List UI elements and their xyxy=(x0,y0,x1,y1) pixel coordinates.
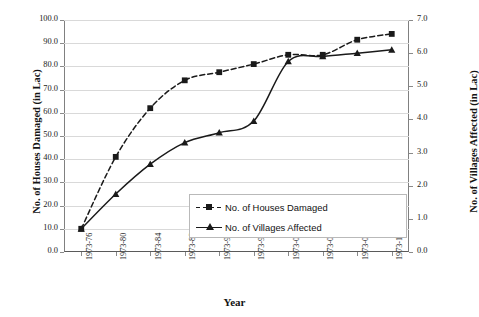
left-tick-label: 50.0 xyxy=(18,130,58,139)
right-tick-mark xyxy=(409,153,413,154)
right-tick-label: 7.0 xyxy=(417,14,457,23)
legend-label-villages-affected: No. of Villages Affected xyxy=(225,222,322,233)
legend-item-houses-damaged: No. of Houses Damaged xyxy=(196,198,328,216)
x-tick-mark xyxy=(150,252,151,256)
data-point-square-marker xyxy=(216,69,222,75)
x-tick-mark xyxy=(323,252,324,256)
left-tick-label: 90.0 xyxy=(18,37,58,46)
left-axis-title: No. of Houses Damaged (in Lac) xyxy=(31,42,42,242)
left-tick-label: 100.0 xyxy=(18,14,58,23)
right-tick-label: 6.0 xyxy=(417,47,457,56)
chart-legend: No. of Houses Damaged No. of Villages Af… xyxy=(189,194,407,238)
right-axis-title: No. of Villages Affected (in Lac) xyxy=(468,42,479,242)
x-tick-mark xyxy=(254,252,255,256)
solid-triangle-marker-icon xyxy=(196,222,222,232)
left-tick-label: 70.0 xyxy=(18,84,58,93)
right-tick-label: 5.0 xyxy=(417,80,457,89)
right-tick-mark xyxy=(409,53,413,54)
right-tick-label: 4.0 xyxy=(417,113,457,122)
data-point-square-marker xyxy=(182,77,188,83)
data-point-square-marker xyxy=(354,37,360,43)
data-point-square-marker xyxy=(285,52,291,58)
x-tick-mark xyxy=(185,252,186,256)
data-point-square-marker xyxy=(251,61,257,67)
x-tick-mark xyxy=(288,252,289,256)
data-point-square-marker xyxy=(147,105,153,111)
left-tick-label: 20.0 xyxy=(18,200,58,209)
right-tick-mark xyxy=(409,219,413,220)
x-axis-title: Year xyxy=(0,296,469,308)
x-tick-mark xyxy=(392,252,393,256)
left-tick-label: 60.0 xyxy=(18,107,58,116)
left-tick-mark xyxy=(60,252,64,253)
right-tick-label: 0.0 xyxy=(417,246,457,255)
x-tick-mark xyxy=(357,252,358,256)
left-tick-label: 10.0 xyxy=(18,223,58,232)
right-tick-mark xyxy=(409,252,413,253)
x-tick-mark xyxy=(81,252,82,256)
right-tick-label: 3.0 xyxy=(417,147,457,156)
right-tick-mark xyxy=(409,86,413,87)
plot-area: 0.010.020.030.040.050.060.070.080.090.01… xyxy=(64,20,409,252)
right-tick-mark xyxy=(409,119,413,120)
x-tick-mark xyxy=(219,252,220,256)
data-point-square-marker xyxy=(113,154,119,160)
legend-label-houses-damaged: No. of Houses Damaged xyxy=(225,202,328,213)
left-tick-label: 40.0 xyxy=(18,153,58,162)
right-tick-mark xyxy=(409,186,413,187)
right-tick-label: 2.0 xyxy=(417,180,457,189)
right-tick-label: 1.0 xyxy=(417,213,457,222)
left-tick-label: 30.0 xyxy=(18,176,58,185)
legend-item-villages-affected: No. of Villages Affected xyxy=(196,218,322,236)
data-point-square-marker xyxy=(389,31,395,37)
x-tick-mark xyxy=(116,252,117,256)
left-tick-label: 80.0 xyxy=(18,60,58,69)
left-tick-label: 0.0 xyxy=(18,246,58,255)
dashed-square-marker-icon xyxy=(196,202,222,212)
right-tick-mark xyxy=(409,20,413,21)
